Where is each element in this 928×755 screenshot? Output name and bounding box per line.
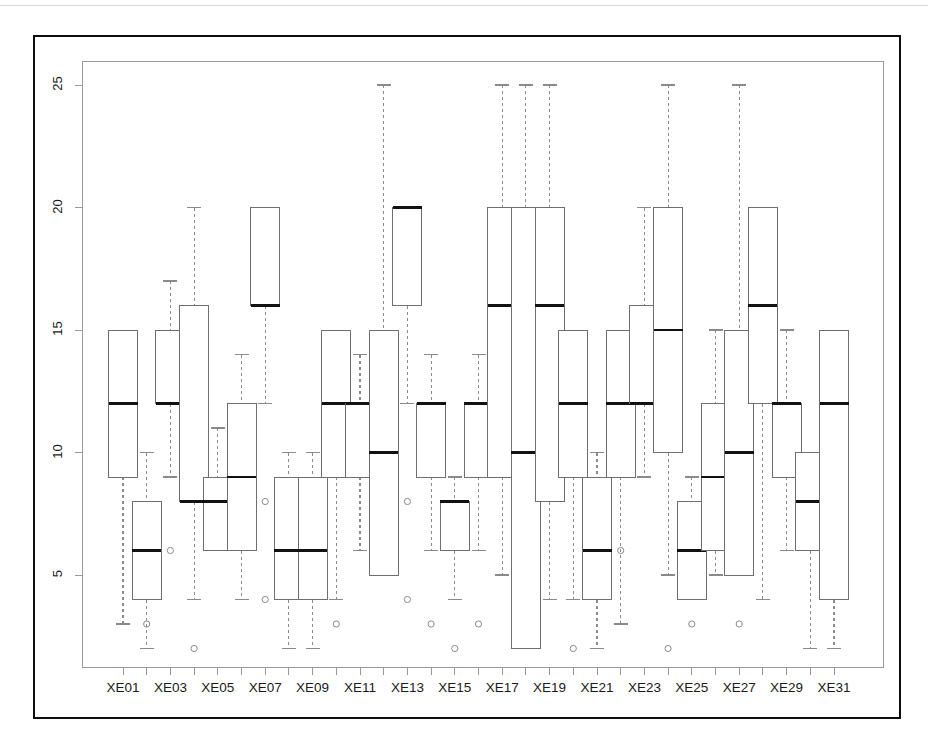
outlier-point <box>333 621 339 627</box>
box-plot-item <box>227 355 256 600</box>
y-axis <box>75 85 82 575</box>
x-tick-label: XE05 <box>193 680 243 695</box>
box-plot-item <box>820 330 849 649</box>
box-iqr-rect <box>298 477 327 600</box>
box-plot-item <box>180 208 209 652</box>
box-series <box>109 85 849 652</box>
outlier-point <box>736 621 742 627</box>
box-iqr-rect <box>440 502 469 551</box>
x-tick-label: XE29 <box>762 680 812 695</box>
box-iqr-rect <box>820 330 849 600</box>
x-tick-label: XE11 <box>335 680 385 695</box>
box-plot-item <box>583 453 612 649</box>
x-tick-label: XE31 <box>809 680 859 695</box>
x-tick-label: XE21 <box>572 680 622 695</box>
figure-page: 510152025XE01XE03XE05XE07XE09XE11XE13XE1… <box>0 0 928 755</box>
box-plot-item <box>369 85 398 575</box>
outlier-point <box>191 645 197 651</box>
box-iqr-rect <box>251 208 280 306</box>
outlier-point <box>167 547 173 553</box>
x-tick-label: XE17 <box>477 680 527 695</box>
box-iqr-rect <box>583 477 612 600</box>
x-tick-label: XE25 <box>667 680 717 695</box>
x-tick-label: XE09 <box>288 680 338 695</box>
outlier-point <box>689 621 695 627</box>
box-iqr-rect <box>180 306 209 502</box>
box-plot-item <box>417 355 446 628</box>
box-plot-item <box>132 453 161 649</box>
y-tick-label: 15 <box>50 316 65 342</box>
box-iqr-rect <box>393 208 422 306</box>
x-tick-label: XE13 <box>382 680 432 695</box>
outlier-point <box>475 621 481 627</box>
x-tick-label: XE01 <box>98 680 148 695</box>
outlier-point <box>452 645 458 651</box>
y-tick-label: 25 <box>50 71 65 97</box>
outlier-point <box>404 596 410 602</box>
outlier-point <box>428 621 434 627</box>
y-tick-label: 5 <box>50 561 65 587</box>
x-tick-label: XE03 <box>145 680 195 695</box>
box-iqr-rect <box>417 404 446 478</box>
outlier-point <box>570 645 576 651</box>
outlier-point <box>665 645 671 651</box>
x-axis <box>123 668 834 675</box>
box-plot-item <box>298 453 327 649</box>
boxplot-canvas <box>0 0 928 755</box>
x-tick-label: XE07 <box>240 680 290 695</box>
x-tick-label: XE15 <box>430 680 480 695</box>
outlier-point <box>404 498 410 504</box>
x-tick-label: XE19 <box>525 680 575 695</box>
outlier-point <box>262 498 268 504</box>
box-plot-item <box>440 477 469 652</box>
y-tick-label: 10 <box>50 438 65 464</box>
outlier-point <box>262 596 268 602</box>
x-tick-label: XE23 <box>619 680 669 695</box>
x-tick-label: XE27 <box>714 680 764 695</box>
y-tick-label: 20 <box>50 193 65 219</box>
